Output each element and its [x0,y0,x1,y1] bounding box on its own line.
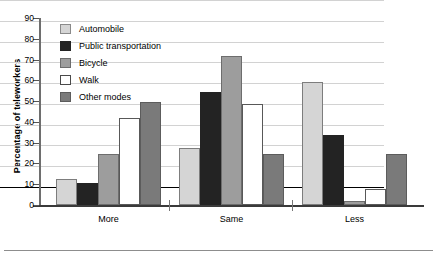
x-label-less: Less [310,214,400,224]
bar-same-automobile [179,148,200,205]
legend-swatch-other-modes [60,92,71,102]
y-tick-label-20: 20 [14,159,34,167]
legend-swatch-public-transportation [60,41,71,51]
bar-same-walk [242,104,263,205]
x-label-more: More [64,214,154,224]
bar-same-bicycle [221,56,242,205]
bar-less-walk [365,189,386,205]
bar-same-public-transportation [200,92,221,205]
y-tick-label-30: 30 [14,139,34,147]
y-tick-label-40: 40 [14,118,34,126]
bar-less-bicycle [344,201,365,205]
legend-item-public-transportation: Public transportation [60,38,161,54]
legend-swatch-bicycle [60,58,71,68]
legend-item-walk: Walk [60,72,161,88]
bar-more-public-transportation [77,183,98,205]
bar-same-other-modes [263,154,284,205]
y-tick-label-0: 0 [14,201,34,209]
y-tick-label-60: 60 [14,76,34,84]
legend-item-bicycle: Bicycle [60,55,161,71]
legend-swatch-walk [60,75,71,85]
group-separator-1 [169,200,170,211]
legend: AutomobilePublic transportationBicycleWa… [60,21,161,106]
bar-more-walk [119,118,140,205]
legend-label: Public transportation [79,41,161,51]
bar-less-other-modes [386,154,407,205]
bar-less-automobile [302,82,323,205]
legend-item-automobile: Automobile [60,21,161,37]
bar-more-other-modes [140,102,161,205]
x-axis-line [33,205,424,207]
bar-more-automobile [56,179,77,205]
legend-label: Bicycle [79,58,108,68]
y-tick-label-80: 80 [14,35,34,43]
gridline-90 [0,0,384,1]
y-tick-label-90: 90 [14,14,34,22]
y-tick-label-70: 70 [14,56,34,64]
legend-label: Other modes [79,92,131,102]
legend-label: Automobile [79,24,124,34]
bottom-rule [4,250,433,251]
y-axis-line [39,18,41,206]
bar-more-bicycle [98,154,119,205]
y-tick-label-50: 50 [14,97,34,105]
legend-swatch-automobile [60,24,71,34]
bar-less-public-transportation [323,135,344,205]
bar-chart-figure: Percentage of teleworkers 01020304050607… [0,0,437,268]
x-label-same: Same [187,214,277,224]
group-separator-2 [292,200,293,211]
bar-group-less [302,18,407,205]
legend-label: Walk [79,75,99,85]
y-tick-label-10: 10 [14,180,34,188]
bar-group-same [179,18,284,205]
